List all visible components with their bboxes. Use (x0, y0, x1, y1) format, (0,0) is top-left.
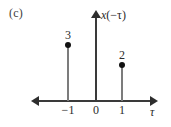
x-tick-label-zero: 0 (93, 103, 99, 118)
y-axis-line (95, 16, 97, 101)
x-tick-label-minus-1: −1 (62, 103, 75, 118)
y-axis-up-arrow-icon (91, 10, 101, 18)
data-point-value-minus-1: 3 (65, 28, 71, 43)
y-axis-label: x(−τ) (101, 8, 126, 23)
data-point-value-plus-1: 2 (119, 48, 125, 63)
x-axis-label: τ (150, 105, 154, 120)
y-axis-label-close-paren: ) (122, 8, 126, 22)
stem-line-plus-1 (121, 65, 123, 101)
x-axis-left-arrow-icon (31, 96, 39, 106)
signal-plot-figure: (c) x(−τ) τ −1 0 1 3 2 (0, 0, 171, 127)
stem-line-minus-1 (67, 45, 69, 101)
x-tick-label-plus-1: 1 (119, 103, 125, 118)
panel-label: (c) (9, 6, 23, 21)
